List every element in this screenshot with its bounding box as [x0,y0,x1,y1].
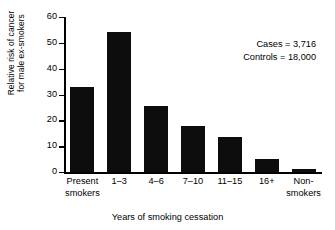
x-category-label-line: smokers [64,188,101,200]
x-category-label-line: 11–15 [211,176,248,188]
y-tick-mark [59,95,64,96]
bar [255,159,279,172]
y-tick-label: 50 [35,37,57,47]
x-axis-title: Years of smoking cessation [0,212,335,222]
x-axis-category-labels: Presentsmokers1–34–67–1011–1516+Non-smok… [64,176,322,208]
x-category-label: Presentsmokers [64,176,101,199]
y-tick-mark [59,146,64,147]
y-axis-title-line-1: Relative risk of cancer [6,0,16,128]
y-tick-mark [59,17,64,18]
bar [107,32,131,172]
y-tick-label: 40 [35,63,57,73]
annotation-block: Cases = 3,716 Controls = 18,000 [186,38,316,63]
bar [181,126,205,173]
x-category-label: Non-smokers [285,176,322,199]
x-category-label: 7–10 [175,176,212,188]
y-tick-label: 10 [35,140,57,150]
x-category-label-line: Non- [285,176,322,188]
x-category-label-line: Present [64,176,101,188]
y-tick-label: 60 [35,11,57,21]
y-tick-mark [59,43,64,44]
bar-chart: Relative risk of cancer for male ex-smok… [0,0,335,230]
y-axis-title-line-2: for male ex-smokers [16,0,26,128]
y-tick-label: 30 [35,89,57,99]
bar [70,87,94,172]
annotation-controls: Controls = 18,000 [186,51,316,64]
y-tick-mark [59,69,64,70]
x-category-label-line: smokers [285,188,322,200]
x-category-label: 4–6 [138,176,175,188]
x-category-label-line: 4–6 [138,176,175,188]
y-tick-mark [59,172,64,173]
y-tick-mark [59,120,64,121]
x-category-label-line: 16+ [248,176,285,188]
bar [218,137,242,172]
y-axis-title: Relative risk of cancer for male ex-smok… [6,0,36,128]
annotation-cases: Cases = 3,716 [186,38,316,51]
x-category-label: 16+ [248,176,285,188]
y-axis-line [64,17,66,172]
y-tick-label: 20 [35,114,57,124]
y-tick-label: 0 [35,166,57,176]
x-category-label-line: 1–3 [101,176,138,188]
x-category-label: 1–3 [101,176,138,188]
x-axis-line [64,172,322,174]
bar [144,106,168,172]
bar [292,169,316,172]
x-category-label-line: 7–10 [175,176,212,188]
x-category-label: 11–15 [211,176,248,188]
